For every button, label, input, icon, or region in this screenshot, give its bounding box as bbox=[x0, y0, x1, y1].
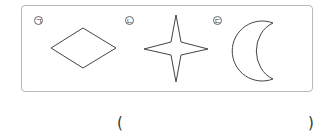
answer-open-paren: ( bbox=[117, 114, 123, 132]
answer-close-paren: ) bbox=[308, 114, 314, 132]
label-giyeok: ㄱ bbox=[34, 16, 43, 25]
label-nieun: ㄴ bbox=[125, 16, 134, 25]
label-digeut: ㄷ bbox=[213, 16, 222, 25]
star-icon bbox=[141, 15, 209, 83]
answer-blank[interactable] bbox=[130, 114, 305, 132]
crescent-moon-icon bbox=[235, 20, 285, 82]
rhombus-icon bbox=[50, 28, 118, 70]
